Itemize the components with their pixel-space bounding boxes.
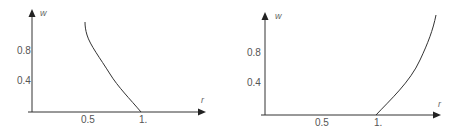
x-axis-label: r bbox=[438, 100, 441, 109]
y-axis-label: w bbox=[40, 9, 47, 18]
curve bbox=[85, 22, 141, 112]
chart-right: w r 0.8 0.4 0.5 1. bbox=[230, 0, 460, 129]
x-axis-arrow-icon bbox=[198, 109, 206, 116]
curve bbox=[376, 15, 436, 115]
y-axis-label: w bbox=[275, 12, 282, 21]
x-axis-label: r bbox=[201, 96, 204, 105]
x-tick-label: 0.5 bbox=[315, 118, 329, 128]
y-tick-label: 0.8 bbox=[247, 48, 261, 58]
y-tick-label: 0.4 bbox=[17, 76, 31, 86]
x-tick-label: 1. bbox=[139, 115, 147, 125]
y-axis-arrow-icon bbox=[29, 9, 36, 17]
chart-left-plot bbox=[0, 0, 230, 129]
y-axis-arrow-icon bbox=[262, 12, 269, 20]
y-tick-label: 0.8 bbox=[17, 46, 31, 56]
chart-right-plot bbox=[230, 0, 460, 129]
chart-left: w r 0.8 0.4 0.5 1. bbox=[0, 0, 230, 129]
x-tick-label: 1. bbox=[374, 118, 382, 128]
x-tick-label: 0.5 bbox=[81, 115, 95, 125]
y-tick-label: 0.4 bbox=[247, 78, 261, 88]
x-axis-arrow-icon bbox=[433, 112, 441, 119]
